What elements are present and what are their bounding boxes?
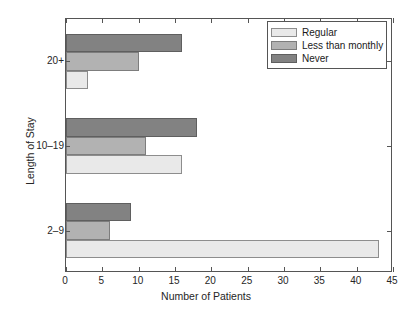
bar-regular-10-19 xyxy=(66,155,182,174)
bar-chart-figure: 051015202530354045 2–910–1920+ Number of… xyxy=(0,0,412,314)
bar-regular-20+ xyxy=(66,71,88,90)
legend-label: Never xyxy=(302,53,329,64)
y-tick-label-0: 2–9 xyxy=(47,224,64,235)
bar-less-than-monthly-10-19 xyxy=(66,137,146,156)
x-tick-label-35: 35 xyxy=(314,275,325,286)
y-tick-label-2: 20+ xyxy=(47,55,64,66)
x-tick-label-5: 5 xyxy=(99,275,105,286)
legend-swatch-icon xyxy=(271,41,297,50)
y-tick-label-1: 10–19 xyxy=(36,140,64,151)
y-tick-0 xyxy=(387,231,392,232)
y-tick-0 xyxy=(65,231,70,232)
x-tick-15 xyxy=(175,18,176,23)
x-tick-label-25: 25 xyxy=(241,275,252,286)
x-tick-30 xyxy=(284,267,285,272)
x-tick-5 xyxy=(102,18,103,23)
legend-swatch-icon xyxy=(271,28,297,37)
bar-less-than-monthly-20+ xyxy=(66,52,139,71)
x-tick-25 xyxy=(248,267,249,272)
x-axis-title: Number of Patients xyxy=(0,290,412,302)
x-tick-20 xyxy=(211,267,212,272)
x-tick-15 xyxy=(175,267,176,272)
legend-item-never[interactable]: Never xyxy=(271,52,382,64)
bar-never-2-9 xyxy=(66,203,131,222)
x-tick-10 xyxy=(139,267,140,272)
x-tick-40 xyxy=(357,267,358,272)
x-tick-20 xyxy=(211,18,212,23)
x-tick-label-0: 0 xyxy=(62,275,68,286)
y-tick-1 xyxy=(387,146,392,147)
legend-label: Less than monthly xyxy=(302,40,383,51)
x-tick-label-15: 15 xyxy=(168,275,179,286)
x-tick-label-20: 20 xyxy=(205,275,216,286)
bar-less-than-monthly-2-9 xyxy=(66,221,110,240)
x-tick-45 xyxy=(393,267,394,272)
y-tick-2 xyxy=(65,61,70,62)
legend-item-regular[interactable]: Regular xyxy=(271,26,382,38)
x-tick-label-10: 10 xyxy=(132,275,143,286)
x-tick-label-40: 40 xyxy=(350,275,361,286)
x-tick-label-45: 45 xyxy=(386,275,397,286)
x-tick-45 xyxy=(393,18,394,23)
x-tick-label-30: 30 xyxy=(277,275,288,286)
y-tick-1 xyxy=(65,146,70,147)
x-tick-35 xyxy=(320,267,321,272)
legend-item-less-than-monthly[interactable]: Less than monthly xyxy=(271,39,382,51)
legend-label: Regular xyxy=(302,27,337,38)
x-tick-25 xyxy=(248,18,249,23)
y-axis-title: Length of Stay xyxy=(24,71,36,231)
chart-legend: RegularLess than monthlyNever xyxy=(267,21,387,69)
bar-never-10-19 xyxy=(66,118,197,137)
bar-never-20+ xyxy=(66,34,182,53)
x-tick-0 xyxy=(66,18,67,23)
legend-swatch-icon xyxy=(271,54,297,63)
x-tick-5 xyxy=(102,267,103,272)
y-tick-2 xyxy=(387,61,392,62)
x-tick-10 xyxy=(139,18,140,23)
x-tick-0 xyxy=(66,267,67,272)
bar-regular-2-9 xyxy=(66,240,379,259)
